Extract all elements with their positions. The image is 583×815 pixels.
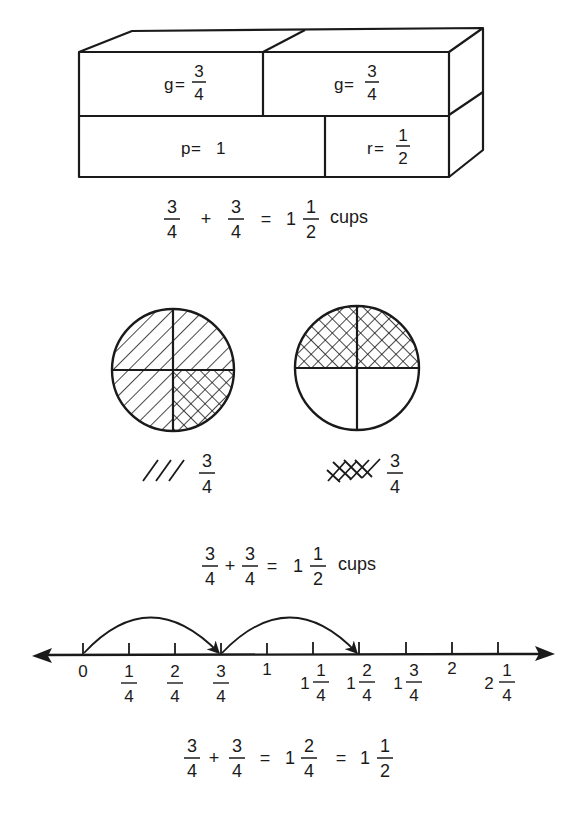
- svg-text:+: +: [209, 748, 220, 768]
- svg-text:4: 4: [232, 761, 242, 781]
- svg-text:1: 1: [300, 674, 309, 693]
- svg-text:4: 4: [216, 687, 225, 706]
- svg-text:2: 2: [362, 661, 371, 680]
- svg-text:3: 3: [202, 451, 212, 471]
- svg-text:1: 1: [285, 748, 295, 768]
- fraction-diagram: g = 3 4 g = 3 4 p = 1 r = 1 2 3 4 + 3 4 …: [0, 0, 583, 815]
- svg-text:cups: cups: [330, 207, 368, 227]
- svg-text:p: p: [181, 139, 190, 158]
- box-model: [79, 28, 483, 177]
- svg-text:4: 4: [362, 686, 371, 705]
- box-cell-r: r = 1 2: [367, 126, 410, 168]
- tick-label-3-4: 3 4: [213, 662, 229, 706]
- svg-text:4: 4: [409, 686, 418, 705]
- svg-text:4: 4: [231, 222, 241, 242]
- svg-text:2: 2: [170, 662, 179, 681]
- svg-text:3: 3: [390, 451, 400, 471]
- svg-text:1: 1: [502, 661, 511, 680]
- svg-text:2: 2: [484, 674, 493, 693]
- svg-text:=: =: [260, 748, 271, 768]
- circle-crosshatch: [295, 306, 419, 430]
- svg-text:3: 3: [245, 544, 255, 564]
- svg-text:2: 2: [313, 569, 323, 589]
- box-top-face: [79, 28, 483, 52]
- circle-equation: 3 4 + 3 4 = 1 1 2 cups: [202, 544, 376, 589]
- svg-text:3: 3: [232, 736, 242, 756]
- svg-text:3: 3: [231, 197, 241, 217]
- svg-text:2: 2: [398, 149, 407, 168]
- svg-text:g: g: [334, 75, 343, 94]
- svg-text:4: 4: [245, 569, 255, 589]
- tick-label-1: 1: [262, 660, 271, 679]
- svg-text:2: 2: [306, 222, 316, 242]
- svg-text:1: 1: [360, 748, 370, 768]
- number-line: 0 1 4 2 4 3 4 1 1 1 4 1 2 4: [32, 618, 555, 707]
- svg-text:cups: cups: [338, 554, 376, 574]
- svg-text:1: 1: [286, 209, 296, 229]
- svg-text:1: 1: [216, 139, 225, 158]
- box-cell-g2: g = 3 4: [334, 62, 379, 104]
- circle-diagonal: [112, 309, 234, 431]
- svg-text:3: 3: [194, 62, 203, 81]
- jump-arc-2: [222, 618, 357, 654]
- tick-label-1-4: 1 4: [121, 662, 137, 706]
- svg-text:2: 2: [380, 761, 390, 781]
- svg-text:+: +: [225, 556, 236, 576]
- svg-text:r: r: [367, 139, 373, 158]
- svg-text:1: 1: [293, 556, 303, 576]
- svg-text:1: 1: [306, 197, 316, 217]
- svg-text:1: 1: [346, 674, 355, 693]
- svg-text:g: g: [164, 75, 173, 94]
- svg-text:1: 1: [398, 126, 407, 145]
- svg-text:3: 3: [187, 736, 197, 756]
- svg-text:=: =: [344, 75, 354, 94]
- svg-text:4: 4: [167, 222, 177, 242]
- svg-text:3: 3: [167, 197, 177, 217]
- tick-label-1-1-4: 1 1 4: [300, 661, 329, 705]
- svg-text:=: =: [261, 209, 272, 229]
- svg-text:4: 4: [502, 686, 511, 705]
- svg-text:0: 0: [78, 662, 87, 681]
- svg-text:3: 3: [409, 661, 418, 680]
- svg-text:4: 4: [187, 761, 197, 781]
- svg-text:4: 4: [194, 85, 203, 104]
- tick-label-2-1-4: 2 1 4: [484, 661, 515, 705]
- cross-hatch-icon: [327, 459, 380, 482]
- svg-text:4: 4: [304, 761, 314, 781]
- number-line-equation: 3 4 + 3 4 = 1 2 4 = 1 1 2: [184, 736, 393, 781]
- svg-text:3: 3: [216, 662, 225, 681]
- number-line-axis: [40, 654, 545, 655]
- svg-text:3: 3: [367, 62, 376, 81]
- svg-text:3: 3: [205, 544, 215, 564]
- svg-text:=: =: [191, 139, 201, 158]
- svg-text:=: =: [175, 75, 185, 94]
- svg-text:4: 4: [390, 477, 400, 497]
- tick-label-1-3-4: 1 3 4: [393, 661, 422, 705]
- svg-text:=: =: [267, 556, 278, 576]
- tick-label-2: 2: [447, 659, 456, 678]
- tick-label-0: 0: [78, 662, 87, 681]
- box-cell-g1: g = 3 4: [164, 62, 206, 104]
- legend-crosshatch: 3 4: [327, 451, 403, 497]
- svg-text:1: 1: [313, 544, 323, 564]
- svg-text:1: 1: [393, 674, 402, 693]
- svg-text:4: 4: [205, 569, 215, 589]
- svg-text:4: 4: [367, 85, 376, 104]
- svg-text:1: 1: [124, 662, 133, 681]
- svg-text:4: 4: [202, 477, 212, 497]
- svg-text:=: =: [374, 139, 384, 158]
- svg-text:4: 4: [316, 686, 325, 705]
- box-cell-p: p = 1: [181, 139, 225, 158]
- svg-text:4: 4: [124, 687, 133, 706]
- svg-text:1: 1: [380, 736, 390, 756]
- tick-label-1-2-4: 1 2 4: [346, 661, 375, 705]
- svg-text:4: 4: [170, 687, 179, 706]
- diagonal-hatch-icon: [143, 460, 184, 481]
- svg-text:2: 2: [304, 736, 314, 756]
- tick-label-2-4: 2 4: [167, 662, 183, 706]
- legend-diagonal: 3 4: [143, 451, 215, 497]
- jump-arc-1: [84, 618, 219, 654]
- svg-text:1: 1: [316, 661, 325, 680]
- box-equation: 3 4 + 3 4 = 1 1 2 cups: [164, 197, 368, 242]
- svg-text:1: 1: [262, 660, 271, 679]
